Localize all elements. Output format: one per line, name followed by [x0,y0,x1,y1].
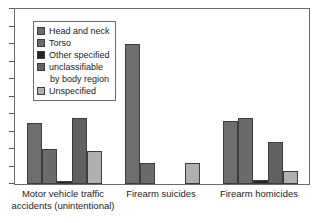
bar [268,142,283,184]
legend-item: Head and neck [37,25,110,37]
x-axis-label: Firearm homicides [200,188,318,200]
legend-swatch-icon [37,87,45,95]
x-axis-label-line1: Motor vehicle traffic [22,188,104,199]
legend-swatch-icon [37,27,45,35]
legend-item: Unspecified [37,85,110,97]
bar-group [211,9,309,184]
legend-swatch-icon [37,63,45,71]
x-axis-label-line2: accidents (unintentional) [4,200,122,212]
chart-figure: Head and neckTorsoOther specifiedunclass… [0,0,321,223]
x-axis-label-line1: Firearm suicides [126,188,196,199]
bar [57,181,72,185]
bar [125,44,140,184]
legend-swatch-icon [37,39,45,47]
bar [42,149,57,184]
bar [140,163,155,184]
legend-item: Other specified [37,49,110,61]
bar [253,180,268,184]
legend-item-label: unclassifiable [49,62,103,73]
bar [27,123,42,184]
legend-item-continuation: by body region [37,73,110,85]
legend-item-label: Unspecified [49,86,96,97]
legend-item-label: Other specified [49,50,110,61]
chart-legend: Head and neckTorsoOther specifiedunclass… [33,21,116,101]
legend-item: Torso [37,37,110,49]
plot-frame: Head and neckTorsoOther specifiedunclass… [14,8,310,185]
x-axis-label-line1: Firearm homicides [220,188,298,199]
bar [87,151,102,184]
legend-item-label: Torso [49,38,71,49]
bar-group [113,9,211,184]
legend-swatch-icon [37,51,45,59]
legend-item-label-line2: by body region [50,74,109,85]
bar [72,118,87,185]
bar [185,163,200,184]
bar [283,171,298,184]
x-axis-labels: Motor vehicle trafficaccidents (unintent… [14,188,310,222]
legend-item: unclassifiable [37,61,110,73]
legend-item-label: Head and neck [49,26,110,37]
bar [238,118,253,185]
bar [223,121,238,184]
